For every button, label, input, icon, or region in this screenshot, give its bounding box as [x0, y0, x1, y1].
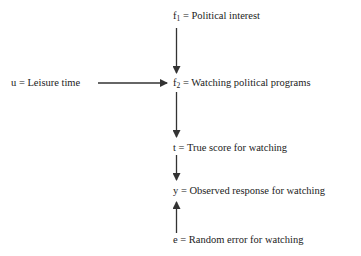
edges: [0, 0, 361, 256]
node-e-label: = Random error for watching: [178, 234, 304, 245]
node-f1: f1 = Political interest: [173, 10, 260, 22]
node-t-label: = True score for watching: [176, 142, 287, 153]
node-u-label: = Leisure time: [16, 77, 80, 88]
node-f2-label: = Watching political programs: [180, 77, 310, 88]
node-e: e = Random error for watching: [173, 234, 303, 246]
node-u: u = Leisure time: [11, 77, 80, 89]
node-t: t = True score for watching: [173, 142, 287, 154]
node-y: y = Observed response for watching: [173, 185, 325, 197]
node-y-label: = Observed response for watching: [178, 185, 325, 196]
node-f1-label: = Political interest: [180, 10, 260, 21]
node-f2: f2 = Watching political programs: [173, 77, 311, 89]
